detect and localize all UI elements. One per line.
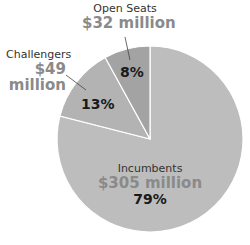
challengers-amount-line2: million [6,77,66,93]
open-seats-amount: $32 million [82,15,168,31]
label-open-seats: Open Seats $32 million [82,2,168,31]
challengers-percent: 13% [81,96,115,112]
label-incumbents: Incumbents $305 million 79% [95,162,205,207]
incumbents-percent: 79% [95,191,205,207]
open-seats-percent: 8% [120,64,144,80]
pie-chart [0,0,250,245]
challengers-amount-line1: $49 [6,61,66,77]
incumbents-amount: $305 million [95,175,205,191]
label-challengers: Challengers $49 million [6,48,66,93]
